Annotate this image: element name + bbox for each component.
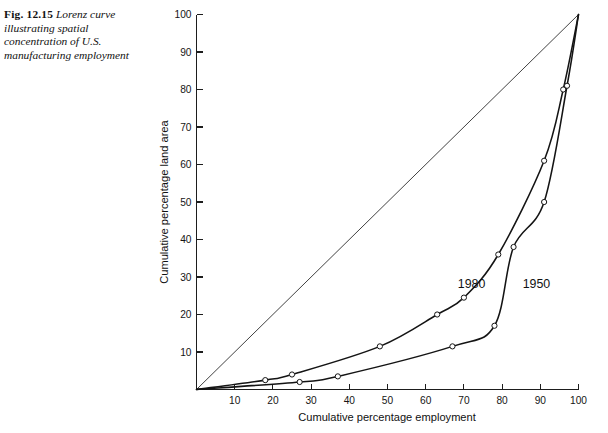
- y-tick-label: 100: [175, 9, 192, 20]
- y-tick-label: 30: [180, 272, 192, 283]
- y-tick-label: 80: [180, 84, 192, 95]
- series-label-1980: 1980: [458, 277, 486, 291]
- data-point-marker: [542, 199, 547, 204]
- x-tick-label: 70: [458, 395, 470, 406]
- data-point-marker: [335, 374, 340, 379]
- x-tick-label: 20: [267, 395, 279, 406]
- x-tick-label: 40: [344, 395, 356, 406]
- data-point-marker: [377, 344, 382, 349]
- y-axis-ticks: 102030405060708090100: [175, 9, 203, 358]
- data-point-marker: [542, 158, 547, 163]
- data-point-marker: [461, 295, 466, 300]
- data-point-marker: [511, 244, 516, 249]
- series-label-1950: 1950: [523, 277, 551, 291]
- x-tick-label: 90: [535, 395, 547, 406]
- y-tick-label: 50: [180, 197, 192, 208]
- data-point-marker: [297, 379, 302, 384]
- data-point-marker: [289, 372, 294, 377]
- x-axis-ticks: 102030405060708090100: [229, 384, 587, 406]
- line-of-equality: [197, 15, 579, 390]
- y-tick-label: 60: [180, 159, 192, 170]
- data-point-marker: [564, 83, 569, 88]
- y-tick-label: 70: [180, 122, 192, 133]
- x-tick-label: 80: [496, 395, 508, 406]
- x-tick-label: 100: [570, 395, 587, 406]
- figure-container: Fig. 12.15 Lorenz curve illustrating spa…: [0, 0, 608, 433]
- data-point-marker: [496, 252, 501, 257]
- data-point-marker: [263, 378, 268, 383]
- data-point-marker: [450, 344, 455, 349]
- y-tick-label: 90: [180, 47, 192, 58]
- lorenz-curve-chart: 102030405060708090100 102030405060708090…: [0, 0, 608, 433]
- x-axis-title: Cumulative percentage employment: [298, 411, 476, 423]
- y-tick-label: 10: [180, 347, 192, 358]
- y-tick-label: 20: [180, 309, 192, 320]
- x-tick-label: 10: [229, 395, 241, 406]
- equality-reference-line: [197, 15, 579, 390]
- y-axis-title: Cumulative percentage land area: [158, 119, 170, 283]
- x-tick-label: 30: [305, 395, 317, 406]
- x-tick-label: 50: [382, 395, 394, 406]
- data-point-marker: [435, 312, 440, 317]
- x-tick-label: 60: [420, 395, 432, 406]
- data-point-marker: [492, 323, 497, 328]
- y-tick-label: 40: [180, 234, 192, 245]
